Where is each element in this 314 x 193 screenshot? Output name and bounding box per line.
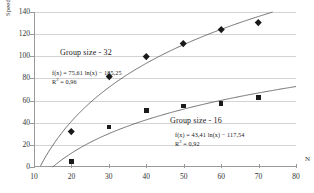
x-tick-label: 20 — [59, 173, 83, 181]
x-tick-label: 30 — [97, 173, 121, 181]
gridline — [34, 101, 296, 102]
x-tick-label: 40 — [134, 173, 158, 181]
chart-container: 020406080100120140 1020304050607080 Grou… — [0, 0, 314, 193]
x-tick — [184, 164, 185, 168]
y-tick-label: 80 — [12, 74, 30, 82]
y-tick-label: 100 — [12, 52, 30, 60]
x-tick-label: 60 — [209, 173, 233, 181]
y-tick-label: 0 — [12, 163, 30, 171]
trendlines — [34, 12, 296, 167]
gridline — [34, 34, 296, 35]
y-axis-line — [34, 12, 35, 167]
r-value: = 0,96 — [59, 78, 77, 85]
data-point — [107, 125, 112, 130]
x-tick-label: 10 — [22, 173, 46, 181]
y-tick — [30, 123, 34, 124]
data-point — [69, 159, 74, 164]
plot-area: 020406080100120140 1020304050607080 Grou… — [34, 12, 296, 167]
y-axis-title: Speed-up — [4, 0, 11, 16]
x-tick — [109, 164, 110, 168]
y-tick — [30, 56, 34, 57]
annotation-group-size-32: Group size - 32 — [60, 48, 112, 57]
gridline — [34, 123, 296, 124]
y-tick-label: 140 — [12, 8, 30, 16]
data-point — [255, 19, 261, 25]
y-tick — [30, 34, 34, 35]
trendline-group-32 — [41, 12, 273, 166]
x-tick — [71, 164, 72, 168]
x-tick — [296, 164, 297, 168]
x-tick-label: 70 — [247, 173, 271, 181]
gridline — [34, 145, 296, 146]
annotation-group-32-r-squared: R2 = 0,96 — [52, 76, 77, 85]
x-tick-label: 50 — [172, 173, 196, 181]
annotation-group-16-equation: f(x) = 43,41 ln(x) − 117,54 — [175, 131, 244, 138]
x-tick — [146, 164, 147, 168]
y-tick — [30, 12, 34, 13]
y-tick-label: 20 — [12, 141, 30, 149]
data-point — [144, 108, 149, 113]
x-tick-label: 80 — [284, 173, 308, 181]
data-point — [143, 53, 149, 59]
gridline — [34, 12, 296, 13]
y-tick-label: 120 — [12, 30, 30, 38]
data-point — [256, 95, 261, 100]
data-point — [218, 27, 224, 33]
x-tick — [259, 164, 260, 168]
data-point — [68, 128, 74, 134]
r-value: = 0,92 — [182, 140, 200, 147]
annotation-group-size-16: Group size - 16 — [170, 116, 222, 125]
x-tick — [34, 164, 35, 168]
data-point — [181, 104, 186, 109]
y-tick — [30, 145, 34, 146]
x-axis-line — [34, 166, 296, 167]
data-point — [219, 101, 224, 106]
x-axis-title: N — [305, 155, 310, 163]
data-point — [181, 40, 187, 46]
annotation-group-16-r-squared: R2 = 0,92 — [175, 138, 200, 147]
x-tick — [221, 164, 222, 168]
annotation-group-32-equation: f(x) = 75,61 ln(x) − 185,25 — [52, 69, 122, 76]
y-tick — [30, 78, 34, 79]
y-tick-label: 40 — [12, 119, 30, 127]
y-tick-label: 60 — [12, 97, 30, 105]
y-tick — [30, 101, 34, 102]
